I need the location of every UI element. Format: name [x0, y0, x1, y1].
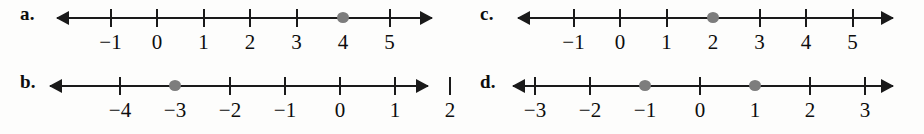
tick-mark — [534, 77, 536, 95]
tick-label: −1 — [634, 100, 656, 121]
axis-a: −1012345 — [57, 6, 432, 30]
axis-line — [57, 17, 432, 19]
plotted-point — [337, 12, 349, 23]
tick-label: −1 — [99, 32, 121, 53]
tick-label: 0 — [695, 100, 706, 121]
tick-label: −2 — [579, 100, 601, 121]
tick-label: 1 — [198, 32, 209, 53]
tick-mark — [339, 77, 341, 95]
tick-mark — [809, 77, 811, 95]
tick-label: 0 — [615, 32, 626, 53]
tick-label: −2 — [219, 100, 241, 121]
plotted-point — [707, 12, 719, 23]
tick-label: 5 — [847, 32, 858, 53]
tick-mark — [589, 77, 591, 95]
tick-label: 2 — [805, 100, 816, 121]
axis-d: −3−2−10123 — [513, 74, 893, 98]
arrow-left-icon — [56, 11, 69, 25]
tick-label: 2 — [445, 100, 456, 121]
tick-label: 3 — [860, 100, 871, 121]
axis-line — [50, 85, 428, 87]
tick-label: 2 — [708, 32, 719, 53]
tick-label: 4 — [801, 32, 812, 53]
tick-mark — [864, 77, 866, 95]
tick-label: 1 — [750, 100, 761, 121]
tick-mark — [284, 77, 286, 95]
tick-mark — [389, 9, 391, 27]
arrow-right-icon — [420, 11, 433, 25]
tick-mark — [666, 9, 668, 27]
arrow-left-icon — [512, 79, 525, 93]
tick-label: 0 — [335, 100, 346, 121]
tick-mark — [156, 9, 158, 27]
tick-mark — [449, 77, 451, 95]
tick-label: 4 — [338, 32, 349, 53]
arrow-left-icon — [49, 79, 62, 93]
panel-letter-a: a. — [20, 4, 35, 23]
arrow-left-icon — [517, 11, 530, 25]
arrow-right-icon — [881, 79, 894, 93]
axis-c: −1012345 — [518, 6, 893, 30]
tick-label: 1 — [661, 32, 672, 53]
tick-mark — [110, 9, 112, 27]
arrow-right-icon — [416, 79, 429, 93]
plotted-point — [639, 80, 651, 91]
tick-mark — [805, 9, 807, 27]
tick-mark — [229, 77, 231, 95]
plotted-point — [169, 80, 181, 91]
tick-mark — [699, 77, 701, 95]
tick-mark — [296, 9, 298, 27]
tick-label: −1 — [274, 100, 296, 121]
tick-mark — [394, 77, 396, 95]
arrow-right-icon — [881, 11, 894, 25]
tick-label: −1 — [562, 32, 584, 53]
tick-mark — [119, 77, 121, 95]
tick-mark — [852, 9, 854, 27]
tick-label: 3 — [754, 32, 765, 53]
plotted-point — [749, 80, 761, 91]
tick-label: 1 — [390, 100, 401, 121]
number-line-figure: a.−1012345b.−4−3−2−1012c.−1012345d.−3−2−… — [0, 0, 924, 134]
tick-label: −4 — [109, 100, 131, 121]
tick-label: 5 — [384, 32, 395, 53]
panel-letter-d: d. — [480, 72, 496, 91]
panel-letter-b: b. — [20, 72, 36, 91]
tick-label: 2 — [245, 32, 256, 53]
axis-line — [513, 85, 893, 87]
panel-letter-c: c. — [480, 4, 494, 23]
tick-mark — [619, 9, 621, 27]
tick-label: 0 — [152, 32, 163, 53]
axis-b: −4−3−2−1012 — [50, 74, 428, 98]
tick-mark — [573, 9, 575, 27]
tick-label: −3 — [164, 100, 186, 121]
tick-mark — [759, 9, 761, 27]
tick-label: −3 — [524, 100, 546, 121]
tick-mark — [203, 9, 205, 27]
tick-label: 3 — [291, 32, 302, 53]
tick-mark — [249, 9, 251, 27]
